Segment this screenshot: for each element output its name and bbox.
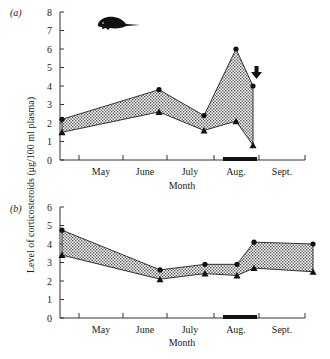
x-tick-label: June <box>136 166 155 177</box>
circle-marker <box>59 228 64 233</box>
circle-marker <box>202 262 207 267</box>
y-tick-label: 1 <box>47 294 52 305</box>
circle-marker <box>59 117 64 122</box>
y-tick-label: 0 <box>47 155 52 166</box>
y-tick-label: 1 <box>47 136 52 147</box>
panel-a-label: (a) <box>10 7 22 19</box>
y-tick-label: 6 <box>47 44 52 55</box>
y-tick-label: 2 <box>47 118 52 129</box>
down-arrow-icon <box>251 66 262 79</box>
x-tick-label: May <box>92 324 110 335</box>
y-tick-label: 0 <box>47 313 52 324</box>
x-tick-label: Aug. <box>226 324 246 335</box>
panel-a-axes: 012345678MayJuneJulyAug.Sept. <box>47 7 305 178</box>
y-axis-label: Level of corticosteroids (μg/100 ml plas… <box>25 97 37 273</box>
y-tick-label: 3 <box>47 257 52 268</box>
x-tick-label: Sept. <box>272 166 292 177</box>
circle-marker <box>233 46 238 51</box>
mouse-icon <box>98 17 140 30</box>
circle-marker <box>156 87 161 92</box>
panel-a-band <box>59 46 257 148</box>
y-tick-label: 3 <box>47 99 52 110</box>
panel-b-label: (b) <box>10 203 22 215</box>
panel-a: (a) 012345678MayJuneJulyAug.Sept. Month <box>10 7 305 192</box>
x-tick-label: July <box>182 324 199 335</box>
triangle-marker <box>250 142 257 149</box>
x-axis-label-a: Month <box>169 180 196 191</box>
x-tick-label: Aug. <box>226 166 246 177</box>
aug-period-bar <box>223 315 257 319</box>
y-tick-label: 7 <box>47 25 52 36</box>
y-tick-label: 8 <box>47 7 52 18</box>
aug-period-bar <box>223 157 257 161</box>
x-tick-label: June <box>136 324 155 335</box>
x-axis-label-b: Month <box>169 337 196 348</box>
corticosteroid-chart: (a) 012345678MayJuneJulyAug.Sept. Month … <box>0 0 330 359</box>
circle-marker <box>234 262 239 267</box>
y-tick-label: 4 <box>47 81 52 92</box>
circle-marker <box>201 113 206 118</box>
panel-b: (b) 0123456MayJuneJulyAug.Sept. Month <box>10 202 317 349</box>
y-tick-label: 5 <box>47 62 52 73</box>
y-tick-label: 4 <box>47 239 52 250</box>
y-tick-label: 6 <box>47 202 52 213</box>
x-tick-label: July <box>182 166 199 177</box>
circle-marker <box>251 240 256 245</box>
circle-marker <box>157 267 162 272</box>
y-tick-label: 2 <box>47 276 52 287</box>
panel-b-band <box>59 228 317 283</box>
x-tick-label: Sept. <box>272 324 292 335</box>
circle-marker <box>310 241 315 246</box>
x-tick-label: May <box>92 166 110 177</box>
circle-marker <box>250 83 255 88</box>
y-tick-label: 5 <box>47 220 52 231</box>
